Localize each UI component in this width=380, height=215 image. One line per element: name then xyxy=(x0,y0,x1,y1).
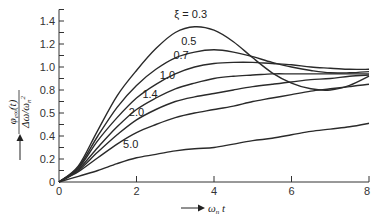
y-tick-label: 1.4 xyxy=(40,15,55,27)
y-tick-label: 0.2 xyxy=(40,153,55,165)
curve-label: 0.7 xyxy=(173,49,188,61)
curve-label: ξ = 0.3 xyxy=(174,8,207,20)
y-axis-label: φe∞(t) Δω/ωn2 xyxy=(6,90,33,134)
axes: 00.20.40.50.81.01.21.402468 xyxy=(40,10,370,198)
y-tick-label: 0.4 xyxy=(40,130,55,142)
curve-label: 1.0 xyxy=(160,69,175,81)
x-axis-arrowhead-icon xyxy=(198,205,205,212)
y-tick-label: 0.5 xyxy=(40,107,55,119)
y-label-denominator: Δω/ωn2 xyxy=(19,95,33,129)
curve-label: 1.4 xyxy=(142,88,157,100)
x-tick-label: 6 xyxy=(288,185,294,197)
y-tick-label: 1.2 xyxy=(40,38,55,50)
x-tick-label: 8 xyxy=(364,185,370,197)
y-label-numerator: φe∞(t) xyxy=(6,99,20,124)
y-tick-label: 0 xyxy=(49,176,55,188)
curve-label: 0.5 xyxy=(181,35,196,47)
x-label-text: ωn t xyxy=(208,202,226,215)
step-response-chart: 00.20.40.50.81.01.21.402468 ξ = 0.30.50.… xyxy=(0,0,380,215)
curve-1.4 xyxy=(59,75,369,182)
x-axis-label: ωn t xyxy=(181,202,226,215)
x-tick-label: 4 xyxy=(211,185,217,197)
curve-label: 2.0 xyxy=(129,106,144,118)
curve-label: 5.0 xyxy=(123,138,138,150)
curve-labels: ξ = 0.30.50.71.01.42.05.0 xyxy=(123,8,207,150)
curve-0.7 xyxy=(59,62,369,182)
y-tick-label: 1.0 xyxy=(40,61,55,73)
y-tick-label: 0.8 xyxy=(40,84,55,96)
y-axis-arrow-icon xyxy=(17,134,24,160)
x-tick-label: 2 xyxy=(133,185,139,197)
curves xyxy=(59,27,369,182)
x-tick-label: 0 xyxy=(56,185,62,197)
